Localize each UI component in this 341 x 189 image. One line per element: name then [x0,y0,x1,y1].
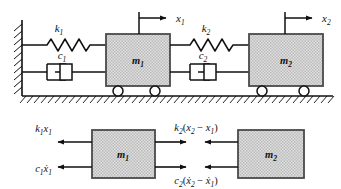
mechanical-system-figure: k1 c1 m1 k2 c2 m2 x1 x2 [0,0,341,189]
